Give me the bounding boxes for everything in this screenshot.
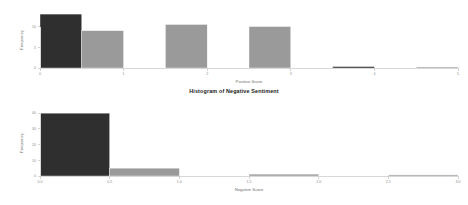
x-tick-label: 0.5: [107, 180, 112, 184]
x-tick-label: 2: [206, 72, 208, 76]
histogram-bar: [165, 24, 207, 68]
y-tick-label: 30: [32, 127, 36, 131]
x-tick-label: 1.5: [247, 180, 252, 184]
x-tick-label: 4: [373, 72, 375, 76]
positive-sentiment-histogram: 0510012345Positive ScoreFrequency: [0, 0, 468, 100]
y-tick-label: 0: [34, 174, 36, 178]
x-tick-label: 1: [123, 72, 125, 76]
y-tick-label: 40: [32, 111, 36, 115]
x-tick-label: 0: [39, 72, 41, 76]
negative-sentiment-chart-panel: 0102030400.00.51.01.52.02.53.0Negative S…: [0, 100, 468, 205]
x-tick-label: 1.0: [177, 180, 182, 184]
x-tick-label: 2.0: [316, 180, 321, 184]
histogram-bar: [40, 113, 110, 176]
x-axis-title: Negative Score: [235, 187, 264, 192]
bars-group: [40, 14, 458, 68]
figure-canvas: 0510012345Positive ScoreFrequency Histog…: [0, 0, 468, 205]
x-tick-label: 0.0: [38, 180, 43, 184]
y-axis-title: Frequency: [19, 132, 24, 153]
histogram-bar: [82, 31, 124, 68]
x-tick-label: 3.0: [456, 180, 461, 184]
x-axis-title: Positive Score: [236, 79, 263, 84]
histogram-bar: [110, 168, 180, 176]
negative-sentiment-chart-title: Histogram of Negative Sentiment: [0, 88, 468, 94]
y-tick-label: 10: [32, 25, 36, 29]
histogram-bar: [249, 27, 291, 68]
y-tick-label: 20: [32, 143, 36, 147]
y-tick-label: 0: [34, 66, 36, 70]
positive-sentiment-chart-panel: 0510012345Positive ScoreFrequency: [0, 0, 468, 100]
x-tick-label: 3: [290, 72, 292, 76]
bars-group: [40, 113, 458, 176]
y-axis-title: Frequency: [19, 29, 24, 50]
histogram-bar: [40, 14, 82, 68]
y-tick-label: 10: [32, 159, 36, 163]
x-tick-label: 2.5: [386, 180, 391, 184]
negative-sentiment-histogram: 0102030400.00.51.01.52.02.53.0Negative S…: [0, 100, 468, 205]
y-tick-label: 5: [34, 46, 36, 50]
x-tick-label: 5: [457, 72, 459, 76]
